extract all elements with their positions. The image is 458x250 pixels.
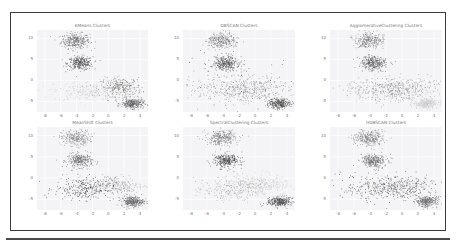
- x-tick-label: 4: [282, 211, 292, 216]
- x-tick-label: -2: [234, 113, 244, 118]
- x-tick-label: -4: [218, 211, 228, 216]
- x-tick-label: -6: [349, 113, 359, 118]
- x-tick-label: 4: [135, 113, 145, 118]
- x-tick-label: -8: [333, 113, 343, 118]
- x-tick-label: 2: [266, 211, 276, 216]
- x-tick-label: 0: [397, 211, 407, 216]
- cluster-points: [82, 76, 148, 103]
- y-tick-label: 10: [23, 35, 33, 40]
- y-tick-label: 5: [23, 154, 33, 159]
- cluster-points: [358, 152, 392, 171]
- x-tick-label: -4: [365, 113, 375, 118]
- x-tick-label: -8: [186, 211, 196, 216]
- y-tick-label: -5: [23, 98, 33, 103]
- y-tick-label: 0: [169, 175, 179, 180]
- x-tick-label: -2: [88, 211, 98, 216]
- x-tick-label: 2: [266, 113, 276, 118]
- x-tick-label: 0: [103, 113, 113, 118]
- y-tick-label: 5: [316, 56, 326, 61]
- y-tick-label: 5: [169, 154, 179, 159]
- x-tick-label: -8: [333, 211, 343, 216]
- x-tick-label: -8: [186, 113, 196, 118]
- x-tick-label: 0: [397, 113, 407, 118]
- y-tick-label: 0: [23, 175, 33, 180]
- x-tick-label: -6: [202, 211, 212, 216]
- x-tick-label: -4: [218, 113, 228, 118]
- page-divider: [6, 238, 450, 240]
- cluster-points: [50, 31, 95, 54]
- y-tick-label: 10: [316, 35, 326, 40]
- chart-title: DBSCAN Clusters: [183, 23, 295, 28]
- y-tick-label: 10: [169, 35, 179, 40]
- chart-title: SpectralClustering Clusters: [183, 120, 295, 125]
- cluster-points: [62, 52, 101, 77]
- y-tick-label: 0: [169, 77, 179, 82]
- x-tick-label: 4: [429, 113, 439, 118]
- x-tick-label: 2: [119, 113, 129, 118]
- y-tick-label: -5: [169, 98, 179, 103]
- x-tick-label: 2: [413, 113, 423, 118]
- chart-title: MeanShift Clusters: [37, 120, 148, 125]
- x-tick-label: 4: [135, 211, 145, 216]
- cluster-points: [115, 96, 148, 111]
- x-tick-label: -8: [40, 211, 50, 216]
- y-tick-label: 10: [169, 133, 179, 138]
- x-tick-label: -4: [72, 211, 82, 216]
- x-tick-label: 4: [282, 113, 292, 118]
- x-tick-label: -2: [234, 211, 244, 216]
- plot-area: [330, 127, 442, 210]
- y-tick-label: 10: [316, 133, 326, 138]
- cluster-points: [265, 96, 295, 110]
- cluster-points: [56, 150, 98, 171]
- x-tick-label: -6: [56, 211, 66, 216]
- x-tick-label: -2: [381, 113, 391, 118]
- cluster-points: [410, 94, 441, 112]
- y-tick-label: -5: [316, 196, 326, 201]
- x-tick-label: -2: [88, 113, 98, 118]
- plot-area: [183, 30, 295, 112]
- x-tick-label: 0: [250, 113, 260, 118]
- plot-area: [183, 127, 295, 210]
- x-tick-label: -4: [72, 113, 82, 118]
- plot-area: [37, 127, 148, 210]
- x-tick-label: 0: [250, 211, 260, 216]
- x-tick-label: 2: [119, 211, 129, 216]
- chart-title: HDBSCAN Clusters: [330, 120, 442, 125]
- x-tick-label: -2: [381, 211, 391, 216]
- x-tick-label: -6: [202, 113, 212, 118]
- plot-area: [37, 30, 148, 112]
- y-tick-label: 5: [316, 154, 326, 159]
- y-tick-label: -5: [23, 196, 33, 201]
- x-tick-label: -8: [40, 113, 50, 118]
- y-tick-label: 10: [23, 133, 33, 138]
- x-tick-label: -4: [365, 211, 375, 216]
- x-tick-label: 0: [103, 211, 113, 216]
- cluster-points: [377, 177, 435, 197]
- y-tick-label: 0: [23, 77, 33, 82]
- chart-title: AgglomerativeClustering Clusters: [330, 23, 442, 28]
- x-tick-label: -6: [349, 211, 359, 216]
- cluster-points: [260, 195, 295, 209]
- y-tick-label: -5: [169, 196, 179, 201]
- x-tick-label: -6: [56, 113, 66, 118]
- plot-area: [330, 30, 442, 112]
- cluster-points: [350, 30, 385, 50]
- cluster-points: [54, 129, 95, 151]
- x-tick-label: 2: [413, 211, 423, 216]
- y-tick-label: 5: [23, 56, 33, 61]
- y-tick-label: 0: [316, 175, 326, 180]
- cluster-points: [353, 54, 396, 72]
- y-tick-label: -5: [316, 98, 326, 103]
- chart-title: KMeans Clusters: [37, 23, 148, 28]
- cluster-points: [208, 53, 244, 72]
- y-tick-label: 5: [169, 56, 179, 61]
- x-tick-label: 4: [429, 211, 439, 216]
- cluster-points: [117, 192, 148, 210]
- y-tick-label: 0: [316, 77, 326, 82]
